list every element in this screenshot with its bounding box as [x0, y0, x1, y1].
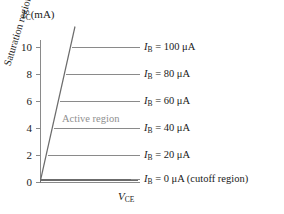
curve-ib-40 — [54, 128, 138, 129]
curve-leader-ib-60 — [131, 101, 140, 102]
y-tick-label: 4 — [10, 123, 32, 134]
x-axis-label-subscript: CE — [125, 195, 135, 204]
curve-leader-ib-80 — [131, 74, 140, 75]
curve-label-value: = 40 μA — [155, 122, 190, 133]
y-tick-6: 6 — [0, 101, 41, 102]
curve-ib-0 — [41, 179, 138, 181]
y-tick-2: 2 — [0, 155, 41, 156]
x-axis-label: VCE — [118, 190, 134, 204]
curve-label-ib-20: IB = 20 μA — [144, 150, 190, 161]
curve-ib-60 — [60, 101, 138, 102]
curve-label-subscript: B — [148, 45, 153, 54]
curve-label-value: = 100 μA — [155, 41, 195, 52]
curve-ib-80 — [66, 74, 138, 75]
y-tick-0: 0 — [0, 182, 41, 183]
curve-label-subscript: B — [148, 153, 153, 162]
curve-label-ib-0: IB = 0 μA (cutoff region) — [144, 174, 248, 185]
curve-label-subscript: B — [148, 126, 153, 135]
curve-label-subscript: B — [148, 72, 153, 81]
active-region-label: Active region — [62, 113, 119, 124]
saturation-boundary-line — [40, 26, 76, 183]
y-tick-label: 0 — [10, 177, 32, 188]
curve-label-ib-80: IB = 80 μA — [144, 69, 190, 80]
y-tick-label: 2 — [10, 150, 32, 161]
curve-leader-ib-0 — [131, 179, 140, 180]
curve-label-value: = 20 μA — [155, 149, 190, 160]
curve-leader-ib-100 — [131, 47, 140, 48]
y-tick-label: 8 — [10, 69, 32, 80]
y-tick-label: 6 — [10, 96, 32, 107]
curve-label-value: = 80 μA — [155, 68, 190, 79]
x-axis-label-variable: V — [118, 190, 125, 202]
saturation-region-label: Saturation region — [2, 0, 34, 67]
y-tick-8: 8 — [0, 74, 41, 75]
curve-leader-ib-40 — [131, 128, 140, 129]
curve-label-ib-60: IB = 60 μA — [144, 96, 190, 107]
curve-label-subscript: B — [148, 177, 153, 186]
curve-label-value: = 60 μA — [155, 95, 190, 106]
curve-label-ib-40: IB = 40 μA — [144, 123, 190, 134]
transistor-collector-characteristic-chart: IC(mA) 10 8 6 4 2 0 IB = 100 μA IB = 80 … — [0, 0, 284, 214]
y-axis-label-unit: (mA) — [31, 8, 55, 20]
curve-leader-ib-20 — [131, 155, 140, 156]
curve-label-ib-100: IB = 100 μA — [144, 42, 195, 53]
curve-ib-20 — [48, 155, 138, 156]
curve-ib-100 — [72, 47, 138, 48]
curve-label-subscript: B — [148, 99, 153, 108]
y-tick-4: 4 — [0, 128, 41, 129]
curve-label-value: = 0 μA (cutoff region) — [155, 173, 248, 184]
